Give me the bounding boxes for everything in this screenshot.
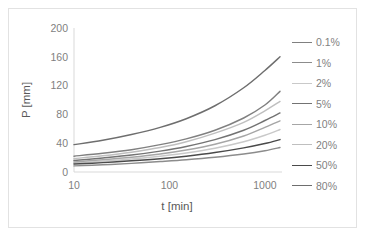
legend-swatch-icon	[292, 124, 312, 125]
y-tick-label: 80	[56, 108, 68, 120]
y-tick-label: 0	[62, 166, 68, 178]
legend-item-label: 2%	[316, 78, 331, 89]
series-group	[74, 57, 280, 166]
y-tick-label: 200	[50, 22, 68, 34]
y-axis-title: P [mm]	[20, 82, 32, 118]
legend-swatch-icon	[292, 103, 312, 104]
legend-swatch-icon	[292, 165, 312, 166]
legend-swatch-icon	[292, 144, 312, 145]
legend-item-10-[interactable]: 10%	[292, 114, 362, 135]
legend-swatch-icon	[292, 185, 312, 186]
legend-swatch-icon	[292, 62, 312, 63]
legend-item-0-1-[interactable]: 0.1%	[292, 32, 362, 53]
series-line-80-	[74, 57, 280, 145]
legend-item-label: 1%	[316, 58, 331, 69]
legend-item-label: 10%	[316, 119, 337, 130]
legend-item-5-[interactable]: 5%	[292, 94, 362, 115]
legend-item-1-[interactable]: 1%	[292, 53, 362, 74]
legend-item-20-[interactable]: 20%	[292, 135, 362, 156]
legend-item-80-[interactable]: 80%	[292, 176, 362, 197]
legend-item-2-[interactable]: 2%	[292, 73, 362, 94]
chart-legend: 0.1%1%2%5%10%20%50%80%	[292, 32, 362, 196]
axes-group	[74, 28, 282, 172]
y-tick-label: 120	[50, 79, 68, 91]
legend-swatch-icon	[292, 83, 312, 84]
x-tick-label: 1000	[253, 179, 277, 191]
legend-item-label: 80%	[316, 181, 337, 192]
y-tick-label: 160	[50, 51, 68, 63]
legend-item-label: 20%	[316, 140, 337, 151]
legend-item-label: 50%	[316, 160, 337, 171]
legend-swatch-icon	[292, 42, 312, 43]
y-tick-label: 40	[56, 137, 68, 149]
legend-item-label: 0.1%	[316, 37, 340, 48]
legend-item-label: 5%	[316, 99, 331, 110]
x-axis-title: t [min]	[161, 200, 192, 212]
series-line-20-	[74, 101, 280, 158]
legend-item-50-[interactable]: 50%	[292, 155, 362, 176]
x-tick-label: 10	[68, 179, 80, 191]
x-tick-label: 100	[161, 179, 179, 191]
axis-labels-group: 04080120160200101001000t [min]P [mm]	[20, 22, 277, 212]
